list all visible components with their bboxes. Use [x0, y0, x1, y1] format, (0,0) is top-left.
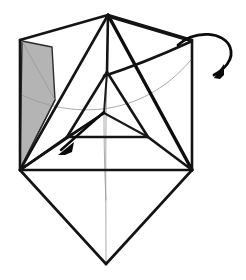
origami-fold-diagram: [0, 0, 246, 280]
fold-diagram-canvas: Origami folding step diagram: [0, 0, 246, 280]
edge-apex-to-inner-top: [107, 15, 108, 72]
